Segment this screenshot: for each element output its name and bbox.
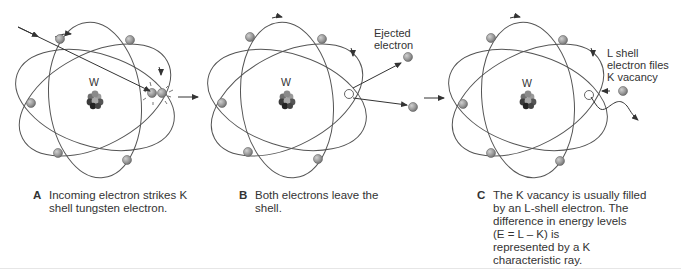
caption-line: The K vacancy is usually filled	[493, 189, 646, 202]
caption-line: characteristic ray.	[493, 254, 646, 267]
caption-letter: A	[33, 189, 41, 202]
characteristic-ray	[591, 97, 638, 120]
bottom-divider	[0, 268, 681, 269]
caption-line: Incoming electron strikes K	[49, 189, 187, 202]
ejected-electron	[404, 53, 413, 62]
annotation-line: electron files	[607, 59, 669, 71]
caption-line: (E = L – K) is	[493, 228, 646, 241]
caption-b: B Both electrons leave the shell.	[239, 189, 378, 215]
ejected-electron-label: Ejected electron	[374, 27, 413, 51]
panel-b-atom	[193, 17, 381, 183]
annotation-line: L shell	[607, 47, 669, 59]
nucleus-label-b: W	[281, 76, 291, 88]
caption-line: Both electrons leave the	[255, 189, 378, 202]
annotation-line: electron	[374, 39, 413, 51]
panel-c-atom	[434, 17, 622, 183]
caption-letter: C	[477, 189, 485, 202]
caption-c: C The K vacancy is usually filled by an …	[477, 189, 646, 267]
annotation-line: Ejected	[374, 27, 413, 39]
l-shell-label: L shell electron files K vacancy	[607, 47, 669, 83]
caption-a: A Incoming electron strikes K shell tung…	[33, 189, 187, 215]
nucleus-label-a: W	[89, 76, 99, 88]
nucleus-label-c: W	[522, 77, 532, 89]
l-shell-electron	[619, 87, 628, 96]
figure-stage: W W W Ejected electron L shell electron …	[0, 0, 681, 275]
k-vacancy	[345, 90, 354, 99]
caption-line: shell tungsten electron.	[49, 202, 187, 215]
caption-letter: B	[239, 189, 247, 202]
panel-a-atom	[1, 18, 189, 183]
caption-line: difference in energy levels	[493, 215, 646, 228]
caption-line: represented by a K	[493, 241, 646, 254]
annotation-line: K vacancy	[607, 71, 669, 83]
caption-line: shell.	[255, 202, 378, 215]
incoming-electron-leaving	[409, 103, 418, 112]
caption-line: by an L-shell electron. The	[493, 202, 646, 215]
